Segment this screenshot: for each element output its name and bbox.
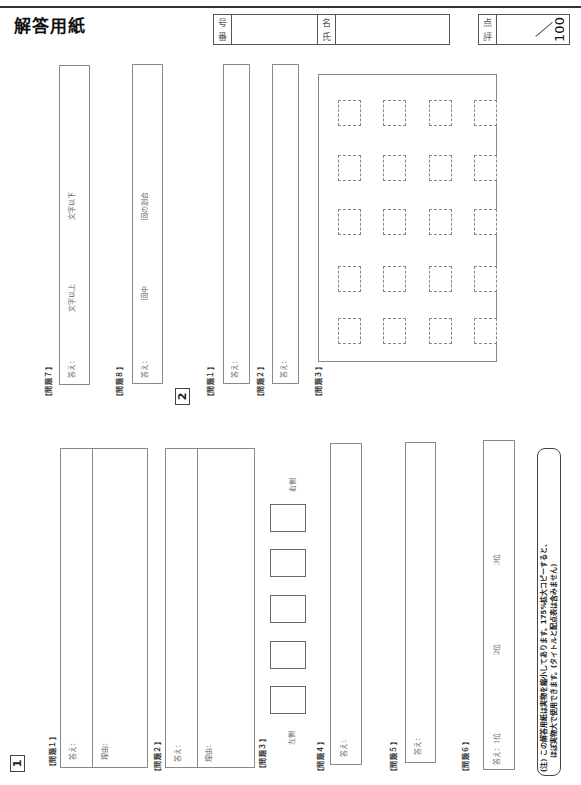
- grid-cell[interactable]: [474, 209, 497, 235]
- s1-q6-box[interactable]: [483, 440, 515, 770]
- grid-cell[interactable]: [338, 318, 361, 344]
- s1-q8-end-label: 回の割合: [139, 192, 149, 220]
- name-field[interactable]: [335, 15, 449, 44]
- s2-q1-label: 【問題１】: [205, 363, 215, 401]
- score-box: 点 評 100: [478, 14, 570, 45]
- s1-q1-answer-field[interactable]: [61, 449, 92, 767]
- s1-q5-box[interactable]: [405, 442, 436, 763]
- number-field[interactable]: [232, 15, 317, 44]
- s1-q5-label: 【問題５】: [388, 738, 398, 776]
- s1-q3-box-2[interactable]: [270, 641, 306, 669]
- score-label: 点 評: [479, 15, 497, 44]
- s1-q2-answer-label: 答え：: [172, 741, 182, 762]
- s1-q4-box[interactable]: [330, 443, 362, 765]
- s1-q1-box: [60, 448, 148, 768]
- score-slash: [535, 22, 552, 37]
- s2-q2-box[interactable]: [272, 64, 299, 384]
- section-2-marker: 2: [175, 388, 190, 405]
- s1-q2-reason-field[interactable]: [198, 449, 254, 767]
- grid-cell[interactable]: [429, 100, 452, 126]
- grid-cell[interactable]: [338, 209, 361, 235]
- top-rule: [0, 6, 581, 8]
- s1-q4-label: 【問題４】: [315, 738, 325, 776]
- grid-cell[interactable]: [429, 209, 452, 235]
- s1-q7-max-label: 文字以下: [66, 192, 76, 220]
- s2-q3-grid-box: [318, 74, 497, 362]
- s1-q1-reason-label: 理由：: [99, 739, 109, 760]
- grid-cell[interactable]: [383, 266, 406, 292]
- s1-q1-reason-field[interactable]: [93, 449, 147, 767]
- s1-q1-answer-label: 答え：: [67, 739, 77, 760]
- grid-cell[interactable]: [383, 155, 406, 181]
- s1-q2-reason-label: 理由：: [203, 741, 213, 762]
- grid-cell[interactable]: [338, 155, 361, 181]
- page-title: 解答用紙: [14, 12, 86, 37]
- grid-cell[interactable]: [383, 209, 406, 235]
- s1-q3-left-label: 左側: [286, 731, 296, 745]
- s1-q3-box-5[interactable]: [270, 504, 306, 532]
- grid-cell[interactable]: [474, 266, 497, 292]
- s2-q1-box[interactable]: [223, 64, 250, 384]
- s1-q3-box-4[interactable]: [270, 549, 306, 577]
- s1-q8-box[interactable]: [132, 64, 163, 384]
- s1-q6-third-label: 3位: [491, 554, 501, 565]
- s1-q7-answer-label: 答え：: [66, 357, 76, 378]
- number-label: 号 番: [214, 15, 232, 44]
- reduction-note-line-2: ほぼ実物大で使用できます。(タイトルと配点表は含みません): [549, 564, 559, 758]
- s1-q6-label: 【問題６】: [460, 738, 470, 776]
- s1-q8-answer-label: 答え：: [139, 357, 149, 378]
- s1-q7-label: 【問題７】: [43, 363, 53, 401]
- s1-q8-label: 【問題８】: [114, 363, 124, 401]
- s1-q3-right-label: 右側: [287, 478, 297, 492]
- s1-q3-box-3[interactable]: [270, 595, 306, 623]
- grid-cell[interactable]: [429, 155, 452, 181]
- student-info-box: 号 番 名 氏: [213, 14, 450, 45]
- grid-cell[interactable]: [429, 266, 452, 292]
- grid-cell[interactable]: [474, 100, 497, 126]
- s1-q7-box[interactable]: [59, 65, 90, 385]
- section-1-marker: 1: [10, 755, 25, 772]
- s1-q6-second-label: 2位: [491, 644, 501, 655]
- s1-q2-label: 【問題２】: [152, 738, 162, 776]
- s1-q2-answer-field[interactable]: [166, 449, 197, 767]
- s2-q1-answer-label: 答え：: [229, 357, 239, 378]
- grid-cell[interactable]: [429, 318, 452, 344]
- grid-cell[interactable]: [338, 100, 361, 126]
- s1-q3-box-1[interactable]: [270, 686, 306, 714]
- reduction-note-line-1: (注) この解答用紙は実物を縮小してあります。175%拡大コピーすると、: [539, 540, 549, 772]
- s1-q3-label: 【問題３】: [257, 735, 267, 773]
- grid-cell[interactable]: [474, 155, 497, 181]
- score-max: 100: [552, 17, 567, 42]
- s1-q8-mid-label: 回中: [139, 286, 149, 300]
- grid-cell[interactable]: [383, 100, 406, 126]
- s1-q4-answer-label: 答え：: [338, 736, 348, 757]
- grid-cell[interactable]: [383, 318, 406, 344]
- s1-q2-box: [165, 448, 255, 768]
- s2-q2-answer-label: 答え：: [278, 357, 288, 378]
- grid-cell[interactable]: [338, 266, 361, 292]
- s1-q6-first-label: 答え：1位: [491, 733, 501, 765]
- name-label: 名 氏: [317, 15, 336, 44]
- s1-q7-min-label: 文字以上: [66, 284, 76, 312]
- score-field[interactable]: 100: [497, 15, 569, 44]
- s1-q5-answer-label: 答え：: [412, 734, 422, 755]
- s2-q2-label: 【問題２】: [255, 363, 265, 401]
- grid-cell[interactable]: [474, 318, 497, 344]
- s1-q1-label: 【問題１】: [47, 733, 57, 771]
- s2-q3-label: 【問題３】: [313, 363, 323, 401]
